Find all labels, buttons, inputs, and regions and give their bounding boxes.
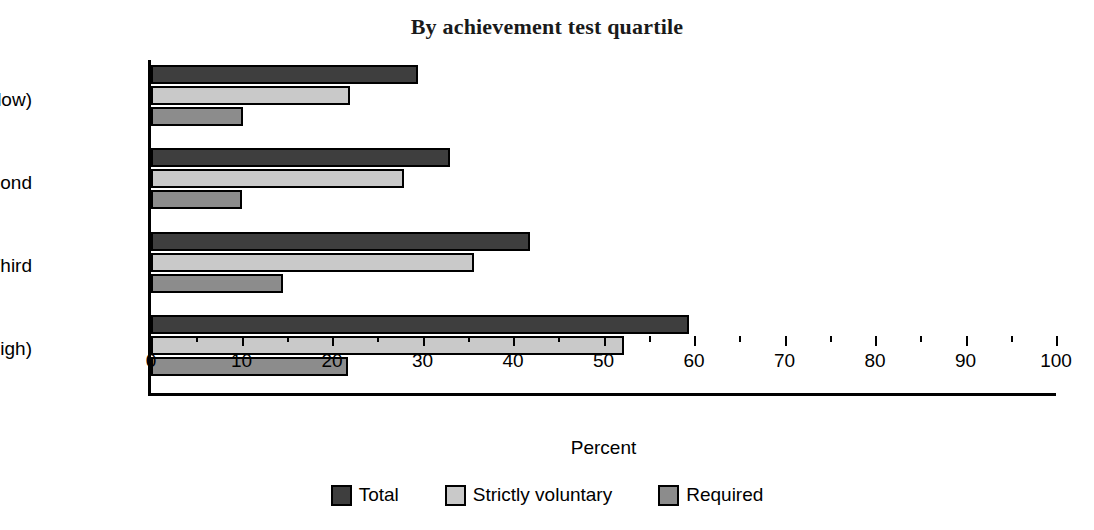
x-axis-minor-tick <box>920 336 922 342</box>
bar[interactable] <box>151 274 283 293</box>
y-axis-tick-label: Fourth (high) <box>0 338 32 360</box>
bar[interactable] <box>151 86 350 105</box>
x-axis-minor-tick <box>830 336 832 342</box>
x-axis-tick-label: 30 <box>393 350 453 372</box>
y-axis-tick-label: Third <box>0 255 32 277</box>
x-axis-minor-tick <box>649 336 651 342</box>
bar[interactable] <box>151 232 530 251</box>
x-axis-tick-label: 70 <box>755 350 815 372</box>
y-axis-tick-label: Second <box>0 172 32 194</box>
bar[interactable] <box>151 315 689 334</box>
x-axis-tick-label: 100 <box>1026 350 1086 372</box>
legend-item[interactable]: Required <box>658 484 763 506</box>
bar-group <box>151 227 1056 310</box>
x-axis-tick-label: 90 <box>936 350 996 372</box>
x-axis-tick <box>1056 336 1058 346</box>
legend-item[interactable]: Total <box>331 484 399 506</box>
legend-label: Strictly voluntary <box>473 484 612 506</box>
x-axis-tick-label: 80 <box>845 350 905 372</box>
x-axis-tick <box>785 336 787 346</box>
bar-group <box>151 60 1056 143</box>
bar[interactable] <box>151 107 243 126</box>
bar-chart: By achievement test quartile First (low)… <box>0 0 1094 530</box>
x-axis-tick-label: 10 <box>212 350 272 372</box>
x-axis-tick <box>966 336 968 346</box>
x-axis-minor-tick <box>558 336 560 342</box>
bar[interactable] <box>151 148 450 167</box>
bar[interactable] <box>151 190 242 209</box>
x-axis-tick-label: 20 <box>302 350 362 372</box>
bar-group <box>151 143 1056 226</box>
x-axis-tick <box>423 336 425 346</box>
x-axis-tick <box>875 336 877 346</box>
x-axis-tick-label: 50 <box>574 350 634 372</box>
x-axis-tick <box>694 336 696 346</box>
legend-swatch-icon <box>658 485 679 506</box>
x-axis-tick <box>513 336 515 346</box>
legend-swatch-icon <box>331 485 352 506</box>
x-axis-title: Percent <box>151 437 1056 459</box>
x-axis-tick <box>151 336 153 346</box>
x-axis-line <box>148 393 1056 396</box>
x-axis-minor-tick <box>468 336 470 342</box>
x-axis-minor-tick <box>377 336 379 342</box>
x-axis-tick-label: 40 <box>483 350 543 372</box>
legend-label: Total <box>359 484 399 506</box>
x-axis-tick-label: 0 <box>121 350 181 372</box>
bar[interactable] <box>151 65 418 84</box>
legend-item[interactable]: Strictly voluntary <box>445 484 612 506</box>
chart-title: By achievement test quartile <box>0 14 1094 40</box>
x-axis-minor-tick <box>196 336 198 342</box>
legend-label: Required <box>686 484 763 506</box>
bar[interactable] <box>151 169 404 188</box>
x-axis-minor-tick <box>1011 336 1013 342</box>
legend-swatch-icon <box>445 485 466 506</box>
x-axis-tick <box>242 336 244 346</box>
x-axis-tick-label: 60 <box>664 350 724 372</box>
y-axis-tick-label: First (low) <box>0 89 32 111</box>
x-axis-tick <box>332 336 334 346</box>
x-axis-tick <box>604 336 606 346</box>
bar[interactable] <box>151 253 474 272</box>
x-axis-minor-tick <box>739 336 741 342</box>
chart-legend: TotalStrictly voluntaryRequired <box>0 484 1094 506</box>
x-axis-minor-tick <box>287 336 289 342</box>
